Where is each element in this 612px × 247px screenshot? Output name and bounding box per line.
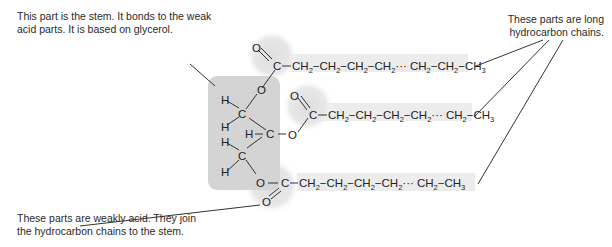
atom-c: C	[238, 150, 246, 162]
atom-o: O	[290, 90, 299, 102]
atom-h: H	[221, 136, 229, 148]
atom-h: H	[221, 166, 229, 178]
atom-o: O	[252, 42, 261, 54]
atom-o: O	[257, 84, 266, 96]
atom-h: H	[245, 128, 253, 140]
hydrocarbon-chain-2: CH2−CH2−CH2−CH2··· CH2−CH3	[328, 109, 494, 124]
atom-c: C	[238, 108, 246, 120]
triglyceride-diagram: H H C H C H H C O C O O C O O C O CH2−CH…	[0, 0, 612, 247]
atom-c: C	[273, 60, 281, 72]
atom-c: C	[281, 177, 289, 189]
atom-o: O	[256, 177, 265, 189]
atom-h: H	[221, 94, 229, 106]
atom-c: C	[266, 128, 274, 140]
atom-o: O	[288, 129, 297, 141]
atom-h: H	[221, 121, 229, 133]
atom-c: C	[309, 109, 317, 121]
atom-o: O	[262, 196, 271, 208]
